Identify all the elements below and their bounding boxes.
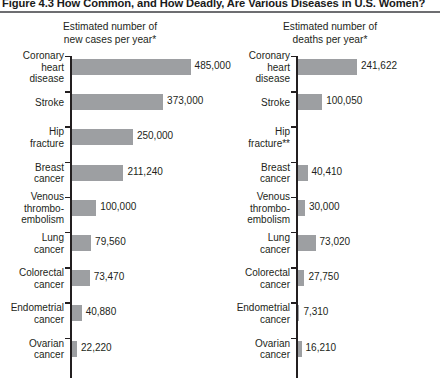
bar-row: Endometrialcancer40,880 bbox=[0, 302, 220, 337]
category-label-line: disease bbox=[220, 73, 290, 85]
bar-row: Ovariancancer16,210 bbox=[220, 338, 440, 373]
bar-row: Venousthrombo-embolism30,000 bbox=[220, 197, 440, 232]
category-label: Endometrialcancer bbox=[0, 302, 64, 325]
chart-panels: Estimated number of new cases per year* … bbox=[0, 14, 440, 381]
bar bbox=[298, 305, 300, 321]
axis-tick bbox=[291, 302, 297, 303]
bar-value-label: 100,050 bbox=[326, 93, 362, 109]
bar-row: Lungcancer73,020 bbox=[220, 232, 440, 267]
category-label-line: Lung bbox=[0, 232, 64, 244]
category-label-line: Endometrial bbox=[220, 302, 290, 314]
bar-value-label: 73,470 bbox=[94, 269, 125, 285]
category-label-line: Ovarian bbox=[0, 338, 64, 350]
category-label: Coronaryheartdisease bbox=[0, 50, 64, 85]
axis-tick bbox=[65, 338, 71, 339]
bar-row: Hipfracture** bbox=[220, 126, 440, 161]
axis-tick bbox=[291, 267, 297, 268]
category-label-line: Venous bbox=[220, 191, 290, 203]
category-label: Colorectalcancer bbox=[220, 267, 290, 290]
category-label-line: cancer bbox=[0, 279, 64, 291]
axis-tick bbox=[291, 126, 297, 127]
category-label-line: cancer bbox=[220, 173, 290, 185]
bar-value-label: 40,880 bbox=[86, 304, 117, 320]
panel-new-cases: Estimated number of new cases per year* … bbox=[0, 14, 220, 381]
category-label-line: Hip bbox=[0, 126, 64, 138]
bar bbox=[72, 235, 92, 251]
category-label: Lungcancer bbox=[0, 232, 64, 255]
axis-tick bbox=[291, 232, 297, 233]
category-label-line: Colorectal bbox=[0, 267, 64, 279]
axis-tick bbox=[291, 91, 297, 92]
category-label-line: heart bbox=[220, 62, 290, 74]
category-label: Venousthrombo-embolism bbox=[220, 191, 290, 226]
bar bbox=[298, 200, 305, 216]
bar-row: Coronaryheartdisease241,622 bbox=[220, 56, 440, 91]
category-label-line: Venous bbox=[0, 191, 64, 203]
category-label-line: Endometrial bbox=[0, 302, 64, 314]
axis-tick bbox=[291, 162, 297, 163]
bar-row: Coronaryheartdisease485,000 bbox=[0, 56, 220, 91]
bar-value-label: 30,000 bbox=[309, 199, 340, 215]
bar bbox=[72, 94, 164, 110]
bar bbox=[72, 165, 124, 181]
panel-deaths-header: Estimated number of deaths per year* bbox=[220, 20, 440, 46]
bar bbox=[72, 305, 82, 321]
bar-row: Colorectalcancer73,470 bbox=[0, 267, 220, 302]
category-label-line: Ovarian bbox=[220, 338, 290, 350]
axis-tick bbox=[291, 338, 297, 339]
bar-value-label: 211,240 bbox=[127, 164, 162, 180]
category-label-line: Lung bbox=[220, 232, 290, 244]
category-label-line: fracture bbox=[0, 138, 64, 150]
panel-new-cases-header-line2: new cases per year* bbox=[0, 33, 220, 46]
bar-value-label: 22,220 bbox=[81, 340, 112, 356]
category-label-line: cancer bbox=[220, 244, 290, 256]
category-label-line: cancer bbox=[220, 279, 290, 291]
bar-row: Hipfracture250,000 bbox=[0, 126, 220, 161]
category-label-line: disease bbox=[0, 73, 64, 85]
panel-deaths-plot: Coronaryheartdisease241,622Stroke100,050… bbox=[220, 54, 440, 380]
bar-row: Stroke373,000 bbox=[0, 91, 220, 126]
bar bbox=[72, 341, 77, 357]
axis-tick bbox=[291, 197, 297, 198]
bar-value-label: 40,410 bbox=[312, 164, 343, 180]
bar-value-label: 241,622 bbox=[361, 58, 397, 74]
panel-deaths: Estimated number of deaths per year* Cor… bbox=[220, 14, 440, 381]
axis-tick bbox=[65, 126, 71, 127]
category-label-line: cancer bbox=[0, 349, 64, 361]
category-label-line: cancer bbox=[0, 244, 64, 256]
axis-tick bbox=[65, 197, 71, 198]
category-label-line: Coronary bbox=[0, 50, 64, 62]
category-label: Hipfracture bbox=[0, 126, 64, 149]
bar-row: Colorectalcancer27,750 bbox=[220, 267, 440, 302]
bar bbox=[72, 59, 191, 75]
category-label: Stroke bbox=[0, 97, 64, 109]
axis-tick bbox=[65, 232, 71, 233]
category-label-line: Breast bbox=[0, 162, 64, 174]
category-label-line: Hip bbox=[220, 126, 290, 138]
panel-new-cases-plot: Coronaryheartdisease485,000Stroke373,000… bbox=[0, 54, 220, 380]
category-label-line: Coronary bbox=[220, 50, 290, 62]
bar-row: Ovariancancer22,220 bbox=[0, 338, 220, 373]
category-label: Hipfracture** bbox=[220, 126, 290, 149]
category-label-line: embolism bbox=[0, 214, 64, 226]
axis-tick bbox=[65, 91, 71, 92]
category-label-line: Stroke bbox=[220, 97, 290, 109]
category-label: Stroke bbox=[220, 97, 290, 109]
bar-row: Stroke100,050 bbox=[220, 91, 440, 126]
axis-tick bbox=[65, 302, 71, 303]
category-label: Breastcancer bbox=[0, 162, 64, 185]
bar bbox=[298, 235, 316, 251]
panel-new-cases-header-line1: Estimated number of bbox=[0, 20, 220, 33]
category-label: Lungcancer bbox=[220, 232, 290, 255]
bar-value-label: 7,310 bbox=[303, 304, 328, 320]
bar-row: Lungcancer79,560 bbox=[0, 232, 220, 267]
panel-deaths-header-line2: deaths per year* bbox=[220, 33, 440, 46]
axis-tick bbox=[65, 56, 71, 57]
bar-row: Venousthrombo-embolism100,000 bbox=[0, 197, 220, 232]
category-label: Breastcancer bbox=[220, 162, 290, 185]
bar bbox=[298, 94, 323, 110]
category-label-line: cancer bbox=[0, 173, 64, 185]
bar-value-label: 79,560 bbox=[95, 234, 126, 250]
panel-deaths-header-line1: Estimated number of bbox=[220, 20, 440, 33]
axis-tick bbox=[65, 162, 71, 163]
